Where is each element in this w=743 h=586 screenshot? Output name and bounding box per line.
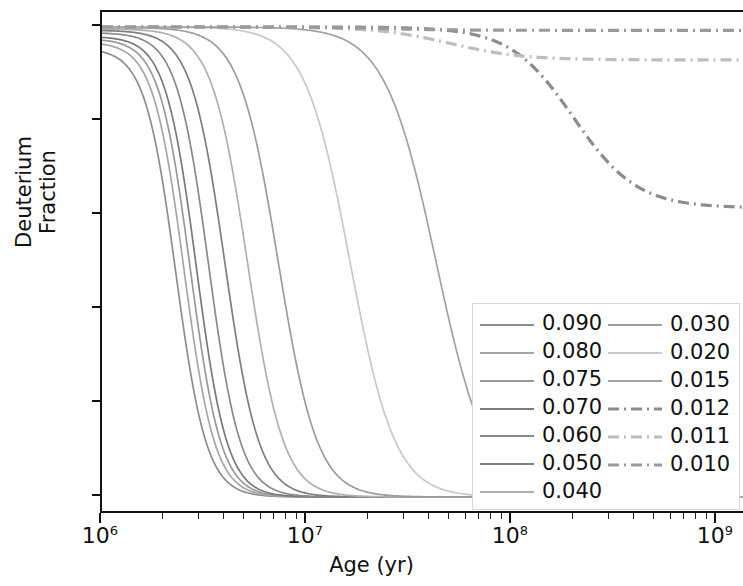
legend-label: 0.075 [542, 369, 602, 390]
y-tick-mark [92, 494, 100, 496]
legend-item[interactable]: 0.012 [607, 394, 735, 422]
x-minor-tick [695, 513, 696, 519]
legend-line-swatch [607, 345, 663, 359]
y-axis-label: Deuterium Fraction [12, 92, 60, 292]
x-minor-tick [428, 513, 429, 519]
legend-line-swatch [607, 373, 663, 387]
y-tick-mark [92, 118, 100, 120]
curve-0-010 [102, 27, 743, 30]
curve-0-012 [102, 27, 743, 207]
legend-label: 0.090 [542, 313, 602, 334]
x-minor-tick [296, 513, 297, 519]
x-minor-tick [653, 513, 654, 519]
x-axis-label: Age (yr) [0, 553, 743, 577]
x-minor-tick [633, 513, 634, 519]
y-tick-mark [92, 24, 100, 26]
x-minor-tick [683, 513, 684, 519]
x-tick-mark [99, 513, 101, 523]
legend-item[interactable]: 0.015 [607, 366, 735, 394]
x-minor-tick [243, 513, 244, 519]
legend-line-swatch [479, 484, 535, 498]
legend-line-swatch [479, 373, 535, 387]
legend-item[interactable]: 0.090 [479, 310, 607, 338]
legend-line-swatch [479, 456, 535, 470]
legend-line-swatch [607, 429, 663, 443]
legend-item[interactable]: 0.080 [479, 338, 607, 366]
x-minor-tick [478, 513, 479, 519]
legend-column-left: 0.0900.0800.0750.0700.0600.0500.040 [479, 310, 607, 505]
legend-label: 0.080 [542, 341, 602, 362]
legend-item[interactable]: 0.020 [607, 338, 735, 366]
x-tick-label: 108 [470, 524, 550, 547]
legend-label: 0.050 [542, 453, 602, 474]
x-minor-tick [465, 513, 466, 519]
legend-label: 0.015 [670, 370, 730, 391]
figure-canvas: Deuterium Fraction 1.00.80.60.40.20.0 10… [0, 0, 743, 586]
x-minor-tick [670, 513, 671, 519]
legend-item[interactable]: 0.010 [607, 450, 735, 478]
x-minor-tick [367, 513, 368, 519]
legend-line-swatch [479, 345, 535, 359]
legend-column-right: 0.0300.0200.0150.0120.0110.010 [607, 310, 735, 505]
legend-label: 0.020 [670, 342, 730, 363]
x-minor-tick [285, 513, 286, 519]
legend-item[interactable]: 0.060 [479, 421, 607, 449]
legend-item[interactable]: 0.050 [479, 449, 607, 477]
x-minor-tick [162, 513, 163, 519]
x-minor-tick [706, 513, 707, 519]
legend-line-swatch [479, 317, 535, 331]
x-minor-tick [501, 513, 502, 519]
legend-line-swatch [607, 457, 663, 471]
legend-line-swatch [479, 428, 535, 442]
legend-label: 0.012 [670, 398, 730, 419]
legend-line-swatch [607, 401, 663, 415]
x-tick-mark [304, 513, 306, 523]
x-minor-tick [198, 513, 199, 519]
legend-item[interactable]: 0.030 [607, 310, 735, 338]
legend-item[interactable]: 0.011 [607, 422, 735, 450]
x-tick-mark [509, 513, 511, 523]
x-minor-tick [223, 513, 224, 519]
x-minor-tick [608, 513, 609, 519]
x-minor-tick [572, 513, 573, 519]
legend-label: 0.011 [670, 426, 730, 447]
y-tick-mark [92, 212, 100, 214]
legend-line-swatch [607, 317, 663, 331]
y-tick-mark [92, 400, 100, 402]
x-minor-tick [260, 513, 261, 519]
legend-label: 0.060 [542, 425, 602, 446]
legend-label: 0.030 [670, 314, 730, 335]
legend-label: 0.040 [542, 481, 602, 502]
legend-item[interactable]: 0.040 [479, 477, 607, 505]
legend-box: 0.0900.0800.0750.0700.0600.0500.040 0.03… [472, 303, 740, 510]
legend-line-swatch [479, 401, 535, 415]
y-tick-mark [92, 306, 100, 308]
legend-item[interactable]: 0.070 [479, 394, 607, 422]
x-minor-tick [448, 513, 449, 519]
legend-label: 0.070 [542, 397, 602, 418]
x-tick-label: 107 [265, 524, 345, 547]
legend-item[interactable]: 0.075 [479, 366, 607, 394]
legend-label: 0.010 [670, 454, 730, 475]
x-minor-tick [403, 513, 404, 519]
x-minor-tick [490, 513, 491, 519]
curve-0-011 [102, 27, 743, 60]
x-tick-label: 106 [60, 524, 140, 547]
x-minor-tick [273, 513, 274, 519]
x-tick-mark [714, 513, 716, 523]
x-tick-label: 109 [675, 524, 743, 547]
